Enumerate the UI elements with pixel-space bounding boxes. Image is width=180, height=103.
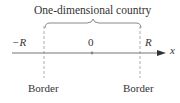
origin-point	[91, 52, 94, 55]
curly-brace	[45, 19, 141, 28]
origin-label: 0	[88, 37, 94, 48]
left-border-label: Border	[28, 83, 59, 94]
axis-label: x	[170, 45, 175, 56]
left-endpoint-label: −R	[12, 37, 26, 48]
axis-arrow-icon	[157, 50, 166, 56]
right-endpoint-label: R	[145, 37, 152, 48]
right-border-label: Border	[123, 83, 154, 94]
diagram-title: One-dimensional country	[34, 5, 151, 17]
